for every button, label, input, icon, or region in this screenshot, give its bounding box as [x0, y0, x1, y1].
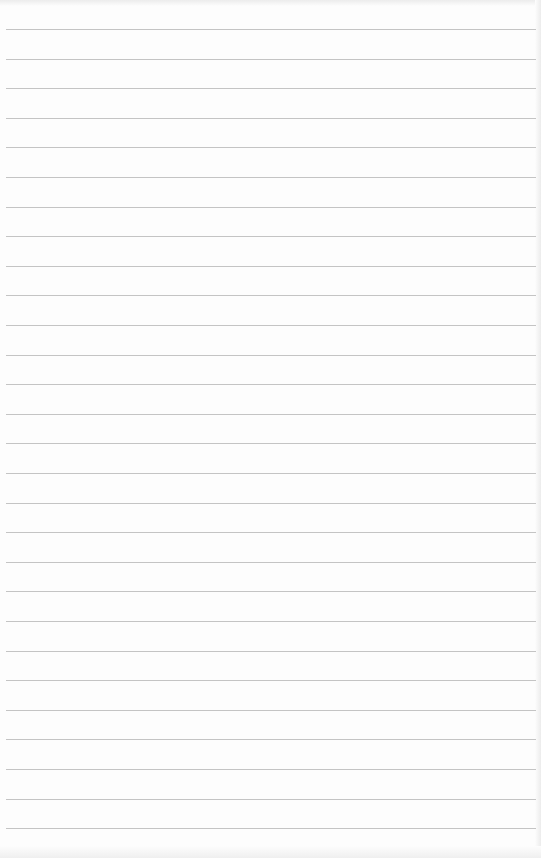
paper-bottom-edge — [0, 846, 541, 858]
ruled-line — [6, 473, 536, 474]
ruled-line — [6, 177, 536, 178]
ruled-line — [6, 295, 536, 296]
ruled-line — [6, 621, 536, 622]
ruled-line — [6, 443, 536, 444]
ruled-line — [6, 414, 536, 415]
paper-right-edge — [535, 0, 541, 858]
ruled-line — [6, 769, 536, 770]
ruled-line — [6, 325, 536, 326]
ruled-line — [6, 503, 536, 504]
ruled-line — [6, 207, 536, 208]
ruled-line — [6, 710, 536, 711]
ruled-line — [6, 59, 536, 60]
ruled-line — [6, 384, 536, 385]
ruled-line — [6, 29, 536, 30]
ruled-line — [6, 739, 536, 740]
ruled-line — [6, 651, 536, 652]
ruled-line — [6, 562, 536, 563]
ruled-line — [6, 266, 536, 267]
ruled-line — [6, 118, 536, 119]
lined-paper-sheet — [0, 0, 541, 858]
ruled-line — [6, 355, 536, 356]
ruled-line — [6, 799, 536, 800]
ruled-line — [6, 532, 536, 533]
ruled-line — [6, 88, 536, 89]
ruled-line — [6, 828, 536, 829]
ruled-line — [6, 680, 536, 681]
ruled-line — [6, 147, 536, 148]
paper-top-edge — [0, 0, 541, 6]
ruled-line — [6, 236, 536, 237]
ruled-line — [6, 591, 536, 592]
